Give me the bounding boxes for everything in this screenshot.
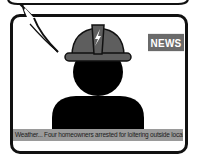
news-badge: NEWS	[148, 34, 184, 51]
news-ticker: Weather... Four homeowners arrested for …	[13, 129, 183, 141]
news-broadcast-scene: NEWS Weather... Four homeowners arrested…	[0, 0, 197, 163]
hard-hat-icon	[65, 25, 131, 61]
